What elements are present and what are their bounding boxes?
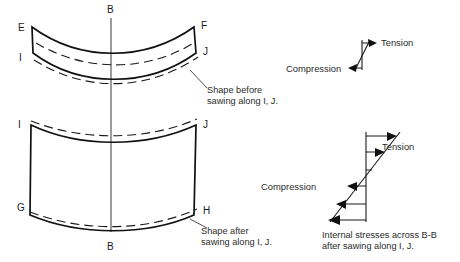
large-stress-diagram: Tension Compression Internal stresses ac… bbox=[261, 132, 437, 251]
centerline-top-label: B bbox=[107, 4, 114, 15]
lower-caption-line2: sawing along I, J. bbox=[201, 237, 272, 247]
centerline-group: B B bbox=[107, 4, 114, 252]
large-stress-caption-line2: after sawing along I, J. bbox=[322, 241, 414, 251]
upper-label-j: J bbox=[203, 46, 208, 57]
upper-label-i: I bbox=[19, 52, 22, 63]
small-tension-arrowhead bbox=[368, 39, 377, 47]
compression-arrowhead-1 bbox=[347, 182, 357, 191]
lower-label-g: G bbox=[17, 202, 25, 213]
upper-label-e: E bbox=[18, 22, 25, 33]
upper-label-f: F bbox=[201, 20, 207, 31]
upper-caption-line2: sawing along I, J. bbox=[207, 96, 278, 106]
lower-label-h: H bbox=[203, 205, 210, 216]
lower-beam-outline bbox=[30, 125, 196, 231]
lower-label-i: I bbox=[18, 119, 21, 130]
upper-beam-group: E F I J Shape before sawing along I, J. bbox=[18, 20, 278, 106]
upper-caption-leader bbox=[190, 70, 207, 88]
large-compression-label: Compression bbox=[261, 181, 316, 192]
lower-beam-group: I J G H Shape after sawing along I, J. bbox=[17, 119, 272, 247]
small-tension-label: Tension bbox=[381, 37, 413, 48]
lower-label-j: J bbox=[203, 119, 208, 130]
large-stress-caption-line1: Internal stresses across B-B bbox=[322, 230, 437, 240]
diagram-canvas: B B E F I J Shape before sawing along I,… bbox=[0, 0, 460, 262]
figure-svg: B B E F I J Shape before sawing along I,… bbox=[0, 0, 460, 262]
small-stress-diagram: Tension Compression bbox=[286, 37, 413, 74]
upper-caption-line1: Shape before bbox=[207, 85, 262, 95]
large-tension-label: Tension bbox=[382, 141, 414, 152]
lower-caption-line1: Shape after bbox=[201, 226, 249, 236]
small-compression-arrowhead bbox=[348, 64, 357, 72]
tension-arrowhead-1 bbox=[387, 132, 397, 141]
centerline-bottom-label: B bbox=[107, 241, 114, 252]
small-compression-label: Compression bbox=[286, 63, 341, 74]
